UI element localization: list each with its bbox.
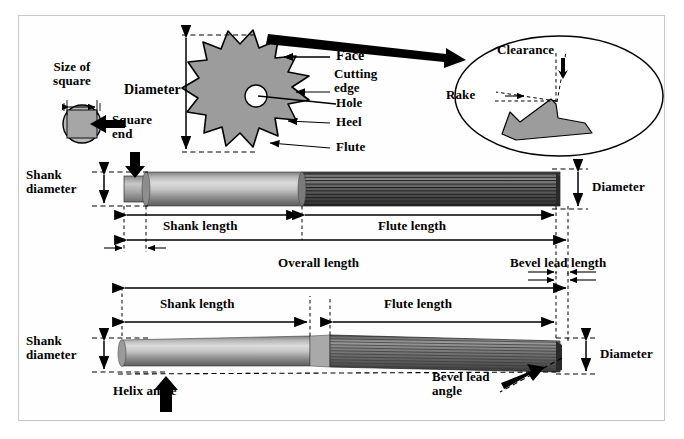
diameter-middle-label: Diameter: [592, 180, 645, 194]
diameter-top-label: Diameter: [124, 82, 181, 97]
shank-length-bottom-label: Shank length: [160, 297, 235, 311]
figure-canvas: Size of square Square end Diameter Face …: [0, 0, 684, 439]
shank-diameter-bottom-label: Shank diameter: [26, 334, 77, 362]
diameter-bottom-label: Diameter: [600, 347, 653, 361]
helix-angle-label: Helix angle: [113, 384, 177, 398]
hole-label: Hole: [336, 96, 362, 110]
cutting-edge-label: Cutting edge: [334, 67, 377, 95]
face-label: Face: [336, 48, 364, 63]
clearance-label: Clearance: [497, 43, 554, 57]
rake-label: Rake: [446, 88, 475, 102]
shank-diameter-middle-label: Shank diameter: [26, 168, 77, 196]
flute-length-bottom-label: Flute length: [384, 297, 452, 311]
square-end-label: Square end: [112, 113, 152, 141]
size-of-square-label: Size of square: [53, 60, 91, 88]
rake-clearance-detail: [455, 36, 663, 156]
flute-length-middle-label: Flute length: [378, 219, 446, 233]
bevel-lead-length-label: Bevel lead length: [510, 256, 606, 270]
bevel-lead-angle-label: Bevel lead angle: [432, 370, 490, 398]
shank-length-middle-label: Shank length: [163, 219, 238, 233]
overall-length-label: Overall length: [278, 256, 359, 270]
heel-label: Heel: [336, 115, 362, 129]
detail-callout-arrow: [266, 34, 466, 68]
flute-label: Flute: [336, 140, 365, 154]
